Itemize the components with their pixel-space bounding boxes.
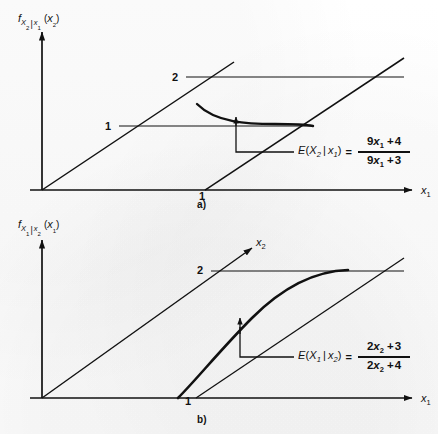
panel-a-caption: a) xyxy=(197,199,206,210)
panel-a-expectation: E(X2|x1) = 9x1+4 9x1+3 xyxy=(298,134,410,170)
panel-b-den-op: + xyxy=(384,359,395,371)
panel-a-num-op: + xyxy=(384,135,395,147)
panel-b-expectation-fraction: 2x2+3 2x2+4 xyxy=(358,339,410,375)
panel-a-expectation-fraction: 9x1+4 9x1+3 xyxy=(358,134,410,170)
panel-a-density-arg-close: ) xyxy=(56,13,59,24)
panel-b-expectation-denominator: 2x2+4 xyxy=(365,358,403,375)
panel-b-x2-axis-label-index: 2 xyxy=(262,242,266,251)
panel-b-x-tick-1: 1 xyxy=(185,395,191,407)
panel-a-y-tick-2: 2 xyxy=(172,71,178,83)
panel-b-density-label: fX1|x2 (x1) xyxy=(18,218,59,237)
panel-a-expectation-lhs: E(X2|x1) xyxy=(298,144,342,159)
panel-b-num-op: + xyxy=(384,340,395,352)
panel-b-x-axis-label-index: 1 xyxy=(427,398,431,407)
panel-b-expectation-curve xyxy=(178,270,348,398)
panel-a-density-sub-cond-index: 1 xyxy=(38,25,41,31)
panel-b-expectation-numerator: 2x2+3 xyxy=(365,339,403,356)
panel-b-density-arg-close: ) xyxy=(56,219,59,230)
panel-a-expectation-bar: | xyxy=(321,144,328,156)
panel-a-x-axis-label: x1 xyxy=(421,184,431,199)
panel-a-x-axis-label-index: 1 xyxy=(427,190,431,199)
panel-a-expectation-numerator: 9x1+4 xyxy=(365,134,403,151)
panel-b-caption: b) xyxy=(197,414,207,425)
panel-b-den-const: 4 xyxy=(395,359,401,371)
panel-b-lower-boundary xyxy=(196,258,404,398)
panel-b-leader-line xyxy=(240,327,294,357)
figure-page: fX2|x1 (x2) 2 1 1 x1 E(X2|x1) = 9x1+4 9x… xyxy=(0,0,438,434)
panel-b-expectation-variable: X xyxy=(309,349,316,361)
panel-b-expectation-bar: | xyxy=(321,349,328,361)
panel-b-num-const: 3 xyxy=(395,340,401,352)
panel-a-y-tick-1: 1 xyxy=(105,120,111,132)
panel-b-expectation: E(X1|x2) = 2x2+3 2x2+4 xyxy=(298,339,410,375)
panel-a-expectation-denominator: 9x1+3 xyxy=(365,153,403,170)
panel-a-den-const: 3 xyxy=(395,154,401,166)
panel-b-density-sub-cond-index: 2 xyxy=(38,231,41,237)
panel-b-expectation-lhs: E(X1|x2) xyxy=(298,349,342,364)
panel-a-expectation-equals: = xyxy=(342,146,358,158)
panel-a-expectation-variable: X xyxy=(309,144,316,156)
panel-b-x-axis-label: x1 xyxy=(421,392,431,407)
panel-a-density-label: fX2|x1 (x2) xyxy=(18,12,59,31)
panel-a-expectation-curve xyxy=(197,104,313,126)
panel-b-expectation-equals: = xyxy=(342,351,358,363)
panel-b-x2-axis-label: x2 xyxy=(256,236,266,251)
panel-b-y-tick-2: 2 xyxy=(197,264,203,276)
panel-a-num-const: 4 xyxy=(395,135,401,147)
panel-a-den-op: + xyxy=(384,154,395,166)
